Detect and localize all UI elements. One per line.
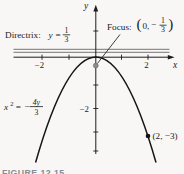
- directrix-frac-denominator: 3: [65, 35, 69, 44]
- focus-first-coord: 0,: [143, 21, 150, 31]
- figure-caption: FIGURE 12.15: [2, 168, 65, 174]
- directrix-label-prefix: Directrix:: [5, 30, 41, 40]
- focus-frac-numerator: 1: [161, 16, 165, 25]
- equation-exponent: 2: [10, 100, 13, 107]
- equation-frac-denominator: 3: [34, 108, 38, 117]
- focus-label: Focus: ( 0, − 1 3 ): [107, 16, 173, 34]
- directrix-label-equals: =: [56, 30, 61, 40]
- x-tick-label-pos2: 2: [144, 60, 148, 70]
- point-label: (2, −3): [153, 131, 178, 141]
- y-axis-arrow-icon: [93, 5, 98, 12]
- y-axis-label: y: [83, 1, 89, 11]
- focus-label-prefix: Focus:: [107, 22, 132, 32]
- point-dot: [146, 134, 151, 139]
- equation-minus: −: [25, 102, 30, 112]
- x-axis-label: x: [172, 60, 178, 70]
- figure-page: Directrix: y = 1 3 Focus: ( 0, − 1 3 ) x…: [0, 0, 184, 174]
- directrix-frac-numerator: 1: [65, 26, 69, 35]
- equation-frac-numerator: 4y: [33, 98, 41, 107]
- focus-paren-close: ): [168, 16, 173, 33]
- equation-equals: =: [16, 102, 21, 112]
- focus-frac-denominator: 3: [161, 25, 165, 34]
- x-tick-label-neg2: −2: [35, 60, 44, 70]
- y-tick-label-neg2: −2: [80, 104, 89, 114]
- focus-paren-open: (: [137, 16, 142, 33]
- parabola-figure: Directrix: y = 1 3 Focus: ( 0, − 1 3 ) x…: [0, 0, 184, 174]
- x-axis-arrow-icon: [168, 55, 175, 60]
- directrix-label: Directrix: y = 1 3: [5, 26, 70, 44]
- directrix-label-var: y: [48, 30, 54, 40]
- equation-var: x: [3, 102, 9, 112]
- focus-minus: −: [151, 20, 156, 30]
- equation-label: x 2 = − 4y 3: [3, 98, 43, 117]
- focus-dot: [93, 63, 98, 68]
